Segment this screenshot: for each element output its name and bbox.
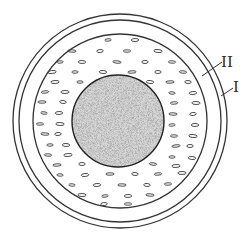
inclusion-dash (38, 101, 46, 103)
inclusion-dash (169, 113, 177, 116)
inclusion-dash (146, 194, 155, 197)
inclusion-dash (185, 80, 192, 83)
inclusion-dash (60, 100, 67, 103)
inclusion-dash (113, 60, 122, 63)
inclusion-dash (105, 39, 112, 42)
inclusion-dash (41, 90, 49, 93)
inclusion-dash (149, 162, 157, 165)
inclusion-dash (77, 81, 83, 84)
inclusion-dash (170, 102, 178, 105)
inclusion-dash (47, 144, 53, 147)
inclusion-dash (169, 92, 176, 95)
inclusion-dash (189, 134, 198, 138)
inclusion-dash (172, 144, 181, 147)
inclusion-dash (93, 183, 101, 186)
inclusion-dash (41, 133, 50, 136)
inclusion-dash (101, 202, 108, 205)
label-ii: II (221, 53, 233, 71)
inclusion-dash (41, 112, 48, 115)
inclusion-dash (188, 156, 196, 160)
inclusion-dash (97, 49, 104, 52)
inclusion-dash (164, 183, 171, 186)
inclusion-dash (79, 162, 85, 165)
inclusion-dash (51, 80, 60, 83)
inclusion-dash (44, 154, 52, 157)
inclusion-dash (106, 173, 114, 176)
inclusion-dash (124, 194, 131, 197)
inclusion-dash (128, 71, 137, 74)
inclusion-dash (169, 156, 175, 158)
inclusion-dash (99, 70, 107, 73)
stippled-core (72, 75, 164, 167)
inclusion-dash (124, 203, 131, 205)
inclusion-dash (179, 71, 187, 74)
inclusion-dash (36, 123, 43, 126)
inclusion-dash (64, 153, 73, 157)
inclusion-dash (131, 38, 138, 41)
inclusion-dash (56, 122, 65, 125)
inclusion-dash (62, 143, 70, 146)
label-i: I (233, 78, 239, 96)
inclusion-dash (154, 173, 162, 176)
inclusion-dash (118, 184, 126, 187)
inclusion-dash (154, 49, 163, 53)
inclusion-dash (78, 60, 85, 63)
inclusion-dash (190, 112, 197, 116)
inclusion-dash (191, 124, 198, 127)
inclusion-dash (142, 60, 149, 63)
inclusion-dash (61, 90, 69, 93)
inclusion-dash (55, 111, 63, 114)
inclusion-dash (187, 144, 193, 147)
inclusion-dash (53, 164, 62, 167)
inclusion-dash (57, 61, 64, 64)
inclusion-dash (57, 174, 63, 177)
cross-section-diagram: III (0, 0, 249, 240)
inclusion-dash (123, 50, 130, 52)
inclusion-dash (169, 124, 176, 127)
inclusion-dash (102, 195, 109, 198)
label-ii-leader-line (202, 62, 222, 76)
inclusion-dash (178, 172, 186, 175)
inclusion-dash (166, 81, 174, 84)
inclusion-dash (168, 61, 175, 64)
inclusion-dash (189, 91, 197, 95)
inclusion-dash (144, 183, 151, 187)
inclusion-dash (146, 80, 154, 84)
inclusion-dash (55, 132, 62, 135)
inclusion-dash (78, 193, 86, 196)
inclusion-dash (172, 164, 180, 167)
inclusion-dash (192, 101, 200, 104)
inclusion-dash (132, 172, 139, 175)
inclusion-dash (69, 184, 76, 187)
inclusion-dash (155, 71, 161, 74)
inclusion-dash (48, 70, 57, 74)
inclusion-dash (81, 173, 89, 177)
inclusion-dash (170, 135, 177, 138)
inclusion-dash (72, 71, 78, 74)
